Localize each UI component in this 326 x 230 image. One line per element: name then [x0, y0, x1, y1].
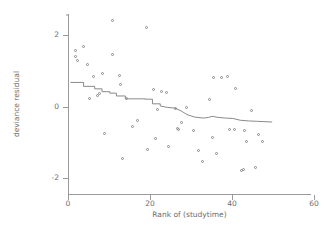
scatter-point: [243, 129, 246, 132]
x-tick-label: 0: [55, 200, 81, 208]
scatter-point: [261, 140, 264, 143]
scatter-point: [215, 152, 218, 155]
scatter-point: [74, 49, 77, 52]
scatter-point: [88, 97, 91, 100]
chart-figure: 20-20204060 Rank of (studytime) deviance…: [0, 0, 326, 230]
scatter-point: [111, 19, 114, 22]
scatter-point: [192, 129, 195, 132]
plot-area: [68, 14, 314, 194]
y-axis-title: deviance residual: [10, 14, 24, 194]
scatter-point: [121, 157, 124, 160]
scatter-point: [250, 109, 253, 112]
scatter-point: [118, 74, 121, 77]
x-tick-label: 60: [301, 200, 326, 208]
scatter-point: [165, 91, 168, 94]
scatter-point: [76, 59, 79, 62]
data-layer: [68, 14, 314, 194]
x-tick-label: 40: [219, 200, 245, 208]
x-tick-label: 20: [137, 200, 163, 208]
x-axis-title: Rank of (studytime): [68, 211, 311, 219]
scatter-point: [174, 107, 177, 110]
scatter-point: [234, 87, 237, 90]
scatter-point: [233, 128, 236, 131]
scatter-point: [154, 137, 157, 140]
scatter-point: [257, 133, 260, 136]
fitted-step-line: [70, 82, 272, 122]
fitted-line-svg: [68, 14, 314, 194]
scatter-point: [220, 76, 223, 79]
x-axis-line: [68, 194, 311, 195]
scatter-point: [226, 75, 229, 78]
y-tick-label: 0: [37, 103, 59, 111]
scatter-point: [211, 136, 214, 139]
y-tick-label: 2: [37, 31, 59, 39]
y-tick-label: -2: [37, 174, 59, 182]
scatter-point: [177, 128, 180, 131]
